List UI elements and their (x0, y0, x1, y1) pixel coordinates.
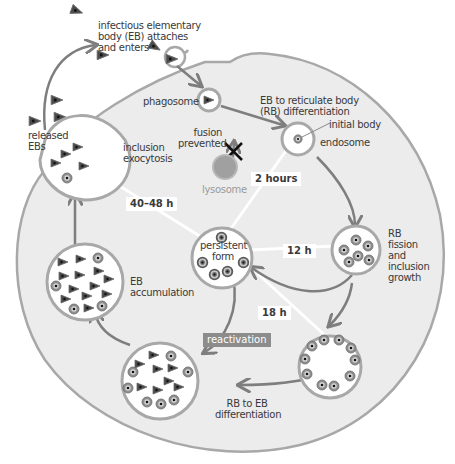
label-rb-fission-3: and (388, 250, 429, 261)
label-rb-fission-1: RB (388, 228, 429, 239)
label-persistent: persistent (200, 240, 246, 251)
label-phagosome: phagosome (143, 96, 199, 107)
label-rb-to-eb-line2: differentiation (215, 409, 279, 420)
label-eb-accumulation: EB accumulation (130, 276, 194, 298)
label-accumulation: accumulation (130, 287, 194, 298)
label-rb-to-eb-line1: RB to EB (215, 398, 279, 409)
label-released-ebs: released EBs (28, 130, 68, 152)
label-endosome: endosome (320, 137, 370, 148)
time-12h: 12 h (283, 244, 316, 258)
reactivation-badge: reactivation (203, 333, 271, 347)
label-entry-line1: infectious elementary (98, 20, 201, 31)
label-ebs: EBs (28, 141, 68, 152)
label-initial-body: initial body (329, 119, 381, 130)
label-persistent-form: persistent form (200, 240, 246, 262)
label-rb-fission-4: inclusion (388, 261, 429, 272)
lysosome-vesicle (213, 155, 237, 179)
label-prevented: prevented (178, 138, 222, 149)
time-18h: 18 h (258, 306, 291, 320)
label-rb-fission-5: growth (388, 272, 429, 283)
label-rb-fission: RB fission and inclusion growth (388, 228, 429, 283)
label-eb: EB (130, 276, 194, 287)
label-form: form (200, 251, 246, 262)
exocytosis-inclusion (40, 116, 130, 200)
label-released: released (28, 130, 68, 141)
time-2-hours: 2 hours (251, 172, 301, 186)
label-fusion: fusion (178, 127, 222, 138)
label-exocytosis: exocytosis (123, 153, 172, 164)
label-entry-line3: and enters (98, 42, 201, 53)
label-rb-fission-2: fission (388, 239, 429, 250)
label-rb-to-eb: RB to EB differentiation (215, 398, 279, 420)
label-eb-to-rb: EB to reticulate body (RB) differentiati… (260, 95, 359, 117)
label-fusion-prevented: fusion prevented (178, 127, 222, 149)
label-eb-to-rb-line1: EB to reticulate body (260, 95, 359, 106)
label-inclusion-exocytosis: inclusion exocytosis (123, 142, 172, 164)
label-lysosome: lysosome (202, 184, 247, 195)
label-eb-to-rb-line2: (RB) differentiation (260, 106, 359, 117)
label-entry: infectious elementary body (EB) attaches… (98, 20, 201, 53)
label-entry-line2: body (EB) attaches (98, 31, 201, 42)
diagram-canvas (0, 0, 455, 464)
time-40-48h: 40–48 h (126, 197, 177, 211)
label-inclusion: inclusion (123, 142, 172, 153)
